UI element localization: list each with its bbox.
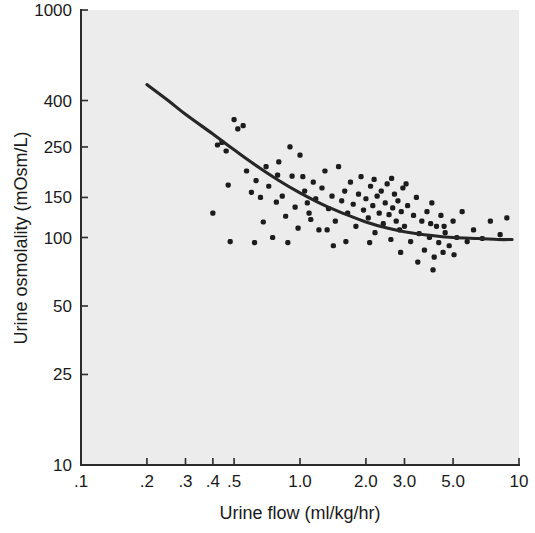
data-point — [394, 219, 399, 224]
data-point — [210, 211, 215, 216]
data-point — [343, 239, 348, 244]
y-tick-label: 400 — [44, 92, 72, 111]
data-point — [398, 250, 403, 255]
x-tick-label: 5.0 — [441, 472, 465, 491]
data-point — [372, 177, 377, 182]
data-point — [235, 126, 240, 131]
data-point — [270, 235, 275, 240]
y-tick-label: 250 — [44, 138, 72, 157]
data-point — [471, 227, 476, 232]
x-tick-label: .4 — [206, 472, 220, 491]
data-point — [377, 211, 382, 216]
data-point — [367, 240, 372, 245]
data-point — [319, 185, 324, 190]
data-point — [356, 192, 361, 197]
data-point — [405, 203, 410, 208]
data-point — [244, 168, 249, 173]
data-point — [339, 198, 344, 203]
data-point — [224, 148, 229, 153]
data-point — [368, 184, 373, 189]
data-point — [395, 198, 400, 203]
data-point — [331, 243, 336, 248]
data-point — [283, 214, 288, 219]
data-point — [322, 168, 327, 173]
data-point — [261, 219, 266, 224]
data-point — [438, 213, 443, 218]
data-point — [316, 227, 321, 232]
data-point — [429, 200, 434, 205]
data-point — [460, 209, 465, 214]
data-point — [336, 164, 341, 169]
data-point — [351, 202, 356, 207]
data-point — [403, 181, 408, 186]
data-point — [411, 213, 416, 218]
data-point — [390, 205, 395, 210]
data-point — [436, 240, 441, 245]
data-point — [363, 196, 368, 201]
data-point — [451, 252, 456, 257]
x-tick-label: 1.0 — [288, 472, 312, 491]
y-tick-label: 25 — [53, 365, 72, 384]
data-point — [428, 221, 433, 226]
data-point — [388, 237, 393, 242]
data-point — [226, 182, 231, 187]
y-tick-labels: 1025501001502504001000 — [34, 1, 72, 475]
data-point — [311, 180, 316, 185]
x-tick-labels: .1.2.3.4.51.02.03.05.010 — [74, 472, 529, 491]
x-tick-label: .2 — [140, 472, 154, 491]
data-point — [379, 188, 384, 193]
x-axis-label: Urine flow (ml/kg/hr) — [219, 503, 380, 523]
data-point — [289, 174, 294, 179]
data-point — [422, 248, 427, 253]
data-point — [414, 195, 419, 200]
y-tick-label: 1000 — [34, 1, 72, 20]
data-point — [266, 184, 271, 189]
data-point — [358, 174, 363, 179]
x-tick-label: .5 — [227, 472, 241, 491]
x-tick-label: 10 — [510, 472, 529, 491]
data-point — [432, 255, 437, 260]
data-point — [306, 211, 311, 216]
data-point — [383, 200, 388, 205]
data-point — [361, 207, 366, 212]
data-point — [386, 212, 391, 217]
data-point — [430, 267, 435, 272]
data-point — [408, 239, 413, 244]
data-point — [353, 224, 358, 229]
y-tick-label: 150 — [44, 188, 72, 207]
data-point — [252, 240, 257, 245]
data-point — [440, 250, 445, 255]
data-point — [325, 227, 330, 232]
data-point — [419, 219, 424, 224]
data-point — [249, 190, 254, 195]
data-point — [399, 209, 404, 214]
y-tick-label: 10 — [53, 456, 72, 475]
x-tick-label: 3.0 — [393, 472, 417, 491]
data-point — [370, 203, 375, 208]
data-point — [293, 205, 298, 210]
data-point — [228, 239, 233, 244]
data-point — [389, 176, 394, 181]
data-point — [385, 181, 390, 186]
chart-figure: .1.2.3.4.51.02.03.05.010 102550100150250… — [0, 0, 535, 533]
data-point — [498, 232, 503, 237]
data-point — [488, 219, 493, 224]
x-tick-label: 2.0 — [354, 472, 378, 491]
data-point — [297, 153, 302, 158]
data-point — [329, 194, 334, 199]
y-tick-label: 100 — [44, 229, 72, 248]
data-point — [276, 159, 281, 164]
data-point — [375, 194, 380, 199]
data-point — [231, 117, 236, 122]
data-point — [285, 240, 290, 245]
data-point — [402, 224, 407, 229]
x-tick-label: .1 — [74, 472, 88, 491]
data-point — [450, 219, 455, 224]
data-point — [215, 142, 220, 147]
data-point — [443, 230, 448, 235]
data-point — [263, 164, 268, 169]
data-point — [295, 225, 300, 230]
data-point — [424, 209, 429, 214]
data-point — [258, 195, 263, 200]
data-point — [504, 215, 509, 220]
